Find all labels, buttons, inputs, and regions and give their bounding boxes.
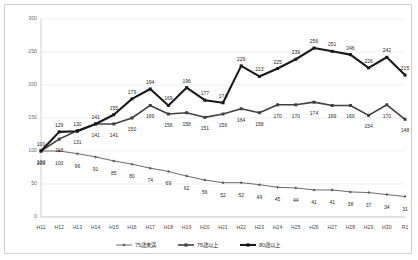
series-marker: [131, 117, 134, 120]
x-axis-labels: H11H12H13H14H15H16H17H18H19H20H21H22H23H…: [36, 224, 408, 230]
series-marker: [276, 186, 279, 189]
data-point-label: 169: [328, 113, 337, 119]
data-point-label: 229: [237, 56, 246, 62]
chart-legend: 75歳未満75歳以上80歳以上: [116, 241, 281, 249]
data-point-label: 177: [201, 90, 210, 96]
data-point-label: 225: [273, 59, 282, 65]
data-point-label: 37: [366, 202, 372, 208]
x-axis-tick-label: H14: [91, 224, 101, 230]
series-marker: [367, 114, 370, 117]
data-point-label: 173: [219, 93, 228, 99]
series-marker: [112, 122, 115, 125]
x-axis-tick-label: R1: [402, 224, 409, 230]
data-point-label: 100: [37, 141, 46, 147]
series-marker: [331, 50, 334, 53]
legend-item-label[interactable]: 75歳以上: [197, 241, 219, 248]
series-marker: [367, 66, 370, 69]
x-axis-tick-label: H19: [182, 224, 192, 230]
x-axis-tick-label: H29: [364, 224, 374, 230]
data-point-label: 213: [255, 66, 264, 72]
legend-marker: [122, 243, 125, 246]
y-axis-tick-label: 300: [28, 15, 37, 21]
data-point-label: 80: [129, 173, 135, 179]
series-marker: [167, 170, 170, 173]
data-point-label: 31: [402, 206, 408, 212]
data-point-label: 52: [238, 192, 244, 198]
data-point-label: 156: [164, 122, 173, 128]
series-marker: [258, 183, 261, 186]
series-marker: [167, 113, 170, 116]
legend-item-label[interactable]: 80歳以上: [259, 241, 281, 248]
data-point-label: 74: [147, 177, 153, 183]
data-point-label: 96: [75, 163, 81, 169]
y-axis-tick-label: 200: [28, 81, 37, 87]
data-point-label: 148: [401, 127, 410, 133]
series-marker: [76, 152, 79, 155]
x-axis-tick-label: H25: [291, 224, 301, 230]
data-point-label: 155: [110, 105, 119, 111]
data-point-label: 62: [184, 185, 190, 191]
x-axis-tick-label: H18: [164, 224, 174, 230]
series-marker: [94, 122, 97, 125]
line-chart: 050100150200250300H11H12H13H14H15H16H17H…: [5, 5, 413, 255]
data-point-label: 44: [293, 197, 299, 203]
data-point-label: 141: [91, 114, 100, 120]
data-point-label: 158: [182, 121, 191, 127]
series-marker: [294, 103, 297, 106]
y-axis-tick-label: 100: [28, 147, 37, 153]
data-point-label: 154: [364, 123, 373, 129]
x-axis-tick-label: H15: [109, 224, 119, 230]
data-point-label: 170: [292, 113, 301, 119]
data-point-label: 118: [55, 147, 63, 153]
series-marker: [203, 179, 206, 182]
data-point-label: 194: [146, 79, 155, 85]
x-axis-tick-label: H13: [73, 224, 83, 230]
series-marker: [112, 113, 115, 116]
chart-plot-area: 050100150200250300H11H12H13H14H15H16H17H…: [5, 5, 413, 255]
x-axis-tick-label: H16: [127, 224, 137, 230]
data-point-label: 41: [329, 199, 335, 205]
x-axis-tick-label: H27: [327, 224, 337, 230]
legend-marker: [184, 243, 187, 246]
series-marker: [240, 107, 243, 110]
data-point-label: 251: [328, 41, 337, 47]
x-axis-tick-label: H12: [54, 224, 64, 230]
data-point-label: 52: [220, 192, 226, 198]
data-point-label: 158: [255, 121, 264, 127]
data-point-label: 169: [164, 95, 173, 101]
series-marker: [222, 101, 225, 104]
series-marker: [331, 104, 334, 107]
x-axis-tick-label: H20: [200, 224, 210, 230]
data-point-label: 242: [383, 47, 392, 53]
series-marker: [149, 87, 152, 90]
series-marker: [203, 99, 206, 102]
series-marker: [294, 186, 297, 189]
series-marker: [349, 104, 352, 107]
data-point-label: 164: [237, 117, 246, 123]
series-marker: [349, 53, 352, 56]
series-marker: [385, 103, 388, 106]
series-marker: [58, 138, 61, 141]
series-marker: [94, 155, 97, 158]
series-marker: [385, 193, 388, 196]
data-point-label: 85: [111, 170, 117, 176]
series-marker: [385, 56, 388, 59]
legend-item-label[interactable]: 75歳未満: [135, 241, 157, 249]
series-marker: [222, 113, 225, 116]
data-point-label: 169: [146, 113, 155, 119]
data-point-label: 174: [310, 110, 319, 116]
series-marker: [185, 175, 188, 178]
series-marker: [349, 190, 352, 193]
data-point-label: 130: [73, 121, 82, 127]
data-point-label: 141: [91, 132, 100, 138]
data-point-label: 69: [166, 180, 172, 186]
series-marker: [367, 191, 370, 194]
data-point-label: 41: [311, 199, 317, 205]
series-marker: [313, 47, 316, 50]
data-point-label: 215: [401, 65, 410, 71]
series-marker: [404, 74, 407, 77]
y-axis-tick-label: 250: [28, 48, 37, 54]
data-point-label: 91: [93, 166, 99, 172]
series-marker: [131, 97, 134, 100]
data-point-label: 170: [383, 113, 392, 119]
